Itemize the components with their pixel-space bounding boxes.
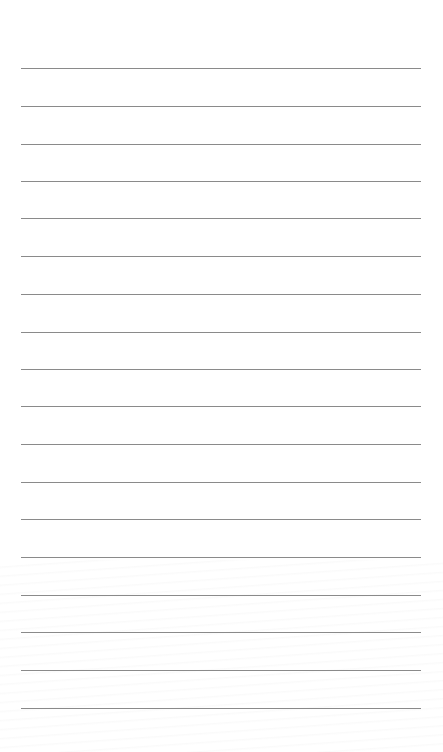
ruled-line [21,519,421,520]
ruled-line [21,294,421,295]
ruled-line [21,670,421,671]
ruled-line [21,68,421,69]
ruled-line [21,181,421,182]
ruled-line [21,406,421,407]
ruled-line [21,632,421,633]
ruled-line [21,595,421,596]
ruled-line [21,444,421,445]
ruled-line [21,106,421,107]
ruled-line [21,256,421,257]
ruled-line [21,557,421,558]
ruled-line [21,144,421,145]
ruled-line [21,369,421,370]
ruled-line [21,708,421,709]
lined-paper-page [0,0,443,752]
ruled-line [21,218,421,219]
ruled-line [21,482,421,483]
ruled-line [21,332,421,333]
show-through-texture [0,560,443,752]
